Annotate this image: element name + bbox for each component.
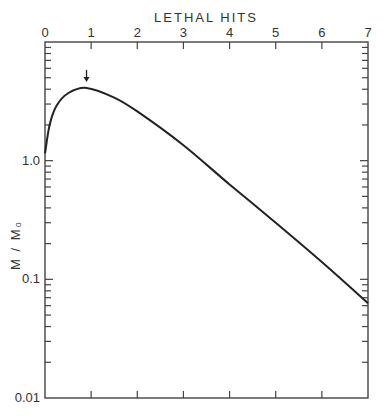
x-tick-labels: 01234567: [41, 25, 371, 40]
y-tick-label: 0.1: [22, 271, 40, 286]
y-tick-label: 0.01: [15, 390, 40, 405]
x-tick-label: 3: [180, 25, 187, 40]
peak-arrow-icon: [84, 70, 90, 82]
x-tick-label: 7: [364, 25, 371, 40]
plot-frame: [45, 42, 368, 398]
x-axis-title: LETHAL HITS: [154, 10, 258, 25]
y-axis-title: M / M₀: [8, 220, 23, 270]
axis-ticks: [45, 42, 368, 398]
x-tick-label: 5: [272, 25, 279, 40]
x-tick-label: 0: [41, 25, 48, 40]
x-tick-label: 2: [134, 25, 141, 40]
y-tick-labels: 1.00.10.01: [15, 153, 40, 405]
y-tick-label: 1.0: [22, 153, 40, 168]
chart: LETHAL HITS 01234567 1.00.10.01 M / M₀: [0, 0, 387, 420]
x-tick-label: 1: [88, 25, 95, 40]
data-curve: [45, 88, 368, 303]
x-tick-label: 6: [318, 25, 325, 40]
x-tick-label: 4: [226, 25, 233, 40]
